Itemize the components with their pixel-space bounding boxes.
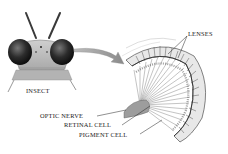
- label-lenses: LENSES: [188, 31, 213, 37]
- magnify-arrow-icon: [74, 48, 124, 64]
- label-insect: INSECT: [26, 88, 50, 94]
- label-optic-nerve: OPTIC NERVE: [40, 113, 83, 119]
- eye-cross-section-illustration: [122, 38, 206, 142]
- compound-eye-diagram: INSECT LENSES OPTIC NERVE RETINAL CELL P…: [0, 0, 228, 154]
- label-retinal-cell: RETINAL CELL: [64, 122, 111, 128]
- insect-head-illustration: [8, 13, 76, 92]
- label-pigment-cell: PIGMENT CELL: [79, 132, 127, 138]
